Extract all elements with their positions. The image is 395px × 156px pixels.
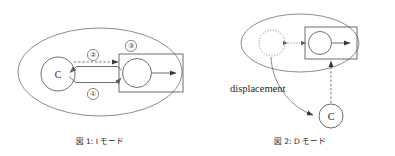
figure-1-outer-ellipse [18, 28, 182, 116]
figure-2-controller-label: C [328, 111, 335, 122]
figure-2-caption: 図 2: D モード [274, 137, 326, 146]
figure-1-controller-label: C [55, 69, 62, 80]
figure-1-badge-3-label: ③ [128, 42, 134, 49]
figure-1-group: C ② ① ③ 図 1: I モード [18, 28, 183, 146]
figure-1-badge-1-label: ① [90, 90, 96, 97]
figure-1-caption: 図 1: I モード [76, 137, 125, 146]
figure-1-edge-feedback-tail [118, 67, 122, 71]
figure-2-group: C displacement 図 2: D モード [230, 14, 359, 146]
figure-1-plant-circle [123, 59, 152, 88]
figures-canvas: C ② ① ③ 図 1: I モード [0, 0, 395, 156]
figure-1-badge-2-label: ② [90, 51, 96, 58]
figure-2-vacated-circle [259, 30, 285, 56]
figure-1-edge-feedback [70, 67, 118, 73]
figure-1-edge-1-solid [69, 77, 121, 83]
figure-2-displacement-label: displacement [230, 83, 285, 94]
figure-sheet: C ② ① ③ 図 1: I モード [0, 0, 395, 156]
figure-2-plant-circle [309, 32, 332, 55]
